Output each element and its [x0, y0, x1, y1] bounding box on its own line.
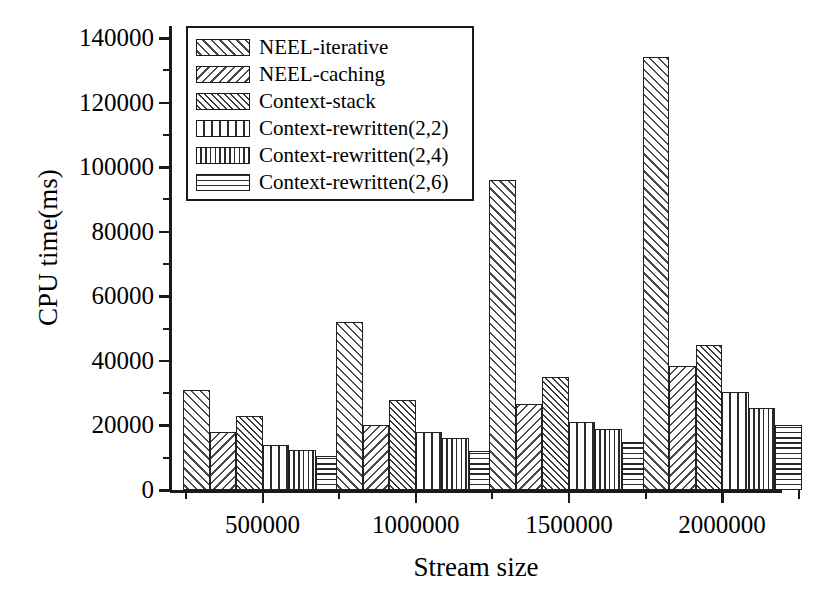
legend-item-label: NEEL-iterative — [259, 37, 388, 58]
y-tick-major — [159, 102, 171, 105]
legend-swatch-icon — [196, 93, 250, 110]
y-tick-major — [159, 295, 171, 298]
x-tick-minor — [185, 490, 187, 499]
legend-item-neel-iterative: NEEL-iterative — [196, 34, 464, 61]
y-axis-line — [169, 26, 172, 492]
bar-context-rewritten-2-2--2000000 — [722, 392, 749, 490]
legend-item-label: Context-stack — [259, 91, 376, 112]
legend-item-context-rewritten-2-2: Context-rewritten(2,2) — [196, 115, 464, 142]
y-tick-label: 60000 — [0, 283, 154, 308]
bar-context-rewritten-2-4--2000000 — [749, 408, 776, 490]
y-tick-minor — [163, 69, 171, 71]
y-tick-minor — [163, 328, 171, 330]
x-tick-minor — [338, 490, 340, 499]
legend-item-label: NEEL-caching — [259, 64, 385, 85]
bar-context-stack-500000 — [236, 416, 263, 490]
legend-item-label: Context-rewritten(2,2) — [259, 118, 449, 139]
y-tick-major — [159, 166, 171, 169]
y-tick-label: 0 — [0, 477, 154, 502]
legend-item-neel-caching: NEEL-caching — [196, 61, 464, 88]
y-tick-minor — [163, 392, 171, 394]
bar-context-rewritten-2-4--1500000 — [595, 429, 622, 490]
y-tick-minor — [163, 457, 171, 459]
x-tick-major — [721, 490, 724, 503]
x-tick-major — [415, 490, 418, 503]
y-tick-major — [159, 231, 171, 234]
y-tick-minor — [163, 198, 171, 200]
bar-neel-iterative-1500000 — [489, 180, 516, 490]
y-tick-label: 140000 — [0, 25, 154, 50]
bar-context-stack-2000000 — [696, 345, 723, 490]
bar-context-stack-1500000 — [542, 377, 569, 490]
bar-neel-iterative-500000 — [183, 390, 210, 490]
legend-swatch-icon — [196, 120, 250, 137]
legend-swatch-icon — [196, 174, 250, 191]
x-tick-major — [262, 490, 265, 503]
x-tick-label: 2000000 — [632, 512, 812, 537]
bar-context-rewritten-2-6--2000000 — [775, 425, 802, 490]
x-tick-minor — [491, 490, 493, 499]
bar-context-stack-1000000 — [389, 400, 416, 490]
legend-item-context-stack: Context-stack — [196, 88, 464, 115]
y-tick-label: 80000 — [0, 219, 154, 244]
legend-item-label: Context-rewritten(2,4) — [259, 145, 449, 166]
bar-neel-caching-500000 — [210, 432, 237, 490]
legend-item-label: Context-rewritten(2,6) — [259, 172, 449, 193]
y-tick-label: 40000 — [0, 348, 154, 373]
legend-item-context-rewritten-2-6: Context-rewritten(2,6) — [196, 169, 464, 196]
bar-neel-caching-1500000 — [516, 404, 543, 490]
x-tick-minor — [798, 490, 800, 499]
bar-chart-figure: CPU time(ms) Stream size 020000400006000… — [0, 0, 824, 607]
legend-swatch-icon — [196, 39, 250, 56]
y-tick-label: 20000 — [0, 412, 154, 437]
x-axis-label: Stream size — [170, 552, 782, 583]
bar-neel-iterative-2000000 — [643, 57, 670, 490]
legend-item-context-rewritten-2-4: Context-rewritten(2,4) — [196, 142, 464, 169]
legend: NEEL-iterative NEEL-caching Context-stac… — [186, 26, 474, 201]
bar-context-rewritten-2-2--1500000 — [569, 422, 596, 490]
bar-context-rewritten-2-2--1000000 — [416, 432, 443, 490]
x-tick-major — [568, 490, 571, 503]
bar-context-rewritten-2-4--1000000 — [442, 438, 469, 490]
y-tick-label: 120000 — [0, 90, 154, 115]
bar-neel-caching-2000000 — [669, 366, 696, 490]
legend-swatch-icon — [196, 66, 250, 83]
y-tick-minor — [163, 263, 171, 265]
bar-neel-iterative-1000000 — [336, 322, 363, 490]
y-tick-major — [159, 360, 171, 363]
x-tick-minor — [645, 490, 647, 499]
bar-context-rewritten-2-4--500000 — [289, 450, 316, 490]
bar-neel-caching-1000000 — [363, 425, 390, 490]
y-tick-major — [159, 37, 171, 40]
bar-context-rewritten-2-2--500000 — [263, 445, 290, 490]
y-tick-minor — [163, 134, 171, 136]
y-tick-major — [159, 424, 171, 427]
y-tick-label: 100000 — [0, 154, 154, 179]
y-tick-major — [159, 489, 171, 492]
legend-swatch-icon — [196, 147, 250, 164]
